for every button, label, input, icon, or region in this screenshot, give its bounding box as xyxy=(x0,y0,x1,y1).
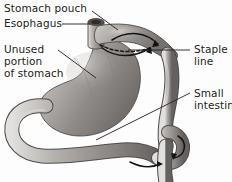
label-small-int-1: Small xyxy=(194,88,224,100)
label-unused-3: of stomach xyxy=(4,68,64,80)
unused-stomach xyxy=(40,39,141,136)
label-unused-2: portion xyxy=(4,56,42,68)
label-small-int-2: intestine xyxy=(194,100,232,112)
label-staple-2: line xyxy=(194,56,213,68)
gastric-bypass-figure: Stomach pouchEsophagusUnusedportionof st… xyxy=(0,0,232,182)
label-staple-1: Staple xyxy=(194,44,228,56)
label-stomach-pouch: Stomach pouch xyxy=(4,3,87,15)
label-unused-1: Unused xyxy=(4,44,44,56)
label-esophagus: Esophagus xyxy=(4,18,62,30)
